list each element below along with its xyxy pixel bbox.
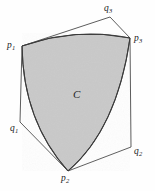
vertex-label-q1-sub: 1 [15,127,18,134]
vertex-label-q1: q1 [10,124,18,134]
vertex-label-p2: p2 [61,174,69,184]
vertex-label-q2-sub: 2 [139,150,142,157]
vertex-label-p1-sub: 1 [12,44,15,51]
vertex-label-p1: p1 [7,41,15,51]
vertex-label-p3: p3 [134,34,142,44]
vertex-label-q3: q3 [104,4,112,14]
vertex-label-p2-sub: 2 [66,177,69,184]
vertex-label-p3-sub: 3 [139,37,142,44]
figure-container: p1 q3 p3 q2 p2 q1 C [0,0,155,191]
region-label-c: C [73,89,80,100]
vertex-label-q2: q2 [134,147,142,157]
vertex-label-q3-sub: 3 [109,7,112,14]
